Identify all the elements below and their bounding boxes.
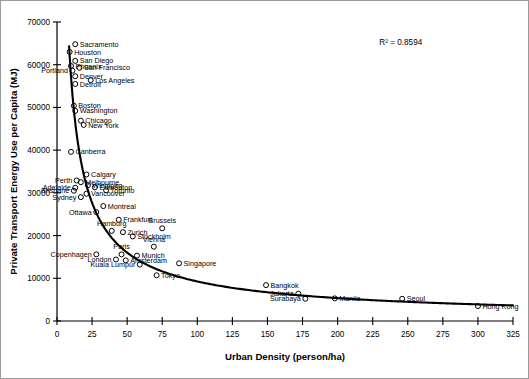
trendline bbox=[69, 46, 513, 305]
r-squared-annotation: R² = 0.8594 bbox=[379, 38, 422, 47]
data-point-label: Vancouver bbox=[91, 189, 125, 198]
data-point-label: Montreal bbox=[108, 202, 136, 211]
data-point-marker bbox=[109, 228, 114, 233]
data-point-marker bbox=[69, 149, 74, 154]
data-point-label: Hong Kong bbox=[482, 302, 518, 311]
data-point-marker bbox=[177, 261, 182, 266]
data-point-marker bbox=[73, 42, 78, 47]
x-tick-label: 175 bbox=[296, 330, 310, 339]
x-tick-label: 125 bbox=[226, 330, 240, 339]
data-point-label: Kuala Lumpur bbox=[91, 260, 136, 269]
data-point-marker bbox=[154, 273, 159, 278]
data-point-label: Detroit bbox=[80, 80, 101, 89]
y-tick-label: 0 bbox=[45, 317, 50, 326]
data-point-marker bbox=[78, 195, 83, 200]
scatter-plot: 010000200003000040000500006000070000 025… bbox=[0, 0, 529, 379]
data-point-label: Washington bbox=[80, 106, 118, 115]
x-tick-label: 25 bbox=[88, 330, 98, 339]
x-tick-label: 0 bbox=[55, 330, 60, 339]
data-point-marker bbox=[101, 204, 106, 209]
y-tick-label: 70000 bbox=[27, 18, 50, 27]
data-point-label: Surabaya bbox=[270, 294, 301, 303]
data-point-marker bbox=[120, 230, 125, 235]
data-point-label: Los Angeles bbox=[95, 76, 135, 85]
data-point-label: Houston bbox=[74, 48, 101, 57]
y-tick-label: 40000 bbox=[27, 146, 50, 155]
y-tick-label: 50000 bbox=[27, 103, 50, 112]
x-tick-label: 300 bbox=[471, 330, 485, 339]
x-tick-label: 50 bbox=[123, 330, 133, 339]
data-point-label: Canberra bbox=[76, 147, 106, 156]
data-points: SacramentoHoustonSan DiegoPhoenixSan Fra… bbox=[41, 40, 518, 311]
data-point-label: Amsterdam bbox=[130, 256, 167, 265]
x-tick-label: 100 bbox=[190, 330, 204, 339]
data-point-marker bbox=[73, 74, 78, 79]
data-point-label: Portland bbox=[41, 66, 68, 75]
data-point-label: Brussels bbox=[148, 216, 176, 225]
data-point-marker bbox=[73, 81, 78, 86]
data-point-label: Sydney bbox=[52, 193, 76, 202]
x-axis: 0255075100125150175200225250275300325 bbox=[55, 317, 521, 339]
x-tick-label: 150 bbox=[261, 330, 275, 339]
y-tick-label: 10000 bbox=[27, 274, 50, 283]
data-point-marker bbox=[160, 226, 165, 231]
y-tick-label: 20000 bbox=[27, 232, 50, 241]
x-tick-label: 275 bbox=[436, 330, 450, 339]
chart-container: 010000200003000040000500006000070000 025… bbox=[0, 0, 529, 379]
x-tick-label: 250 bbox=[401, 330, 415, 339]
data-point-label: Manila bbox=[339, 294, 360, 303]
data-point-label: Paris bbox=[113, 242, 130, 251]
x-tick-label: 200 bbox=[331, 330, 345, 339]
x-tick-label: 225 bbox=[366, 330, 380, 339]
data-point-marker bbox=[264, 283, 269, 288]
data-point-label: Tokyo bbox=[161, 271, 180, 280]
x-tick-label: 75 bbox=[158, 330, 168, 339]
data-point-label: New York bbox=[88, 121, 119, 130]
data-point-label: Singapore bbox=[184, 259, 217, 268]
data-point-marker bbox=[119, 252, 124, 257]
data-point-label: Hamburg bbox=[97, 219, 127, 228]
data-point-marker bbox=[73, 185, 78, 190]
x-tick-label: 325 bbox=[506, 330, 520, 339]
y-axis: 010000200003000040000500006000070000 bbox=[27, 18, 61, 326]
data-point-label: Vienna bbox=[143, 235, 165, 244]
y-axis-title: Private Transport Energy Use per Capita … bbox=[8, 68, 19, 274]
data-point-marker bbox=[151, 244, 156, 249]
data-point-label: Ottawa bbox=[69, 208, 92, 217]
data-point-label: Copenhagen bbox=[51, 250, 92, 259]
data-point-label: Seoul bbox=[407, 294, 426, 303]
data-point-marker bbox=[303, 296, 308, 301]
x-axis-title: Urban Density (person/ha) bbox=[225, 351, 345, 362]
